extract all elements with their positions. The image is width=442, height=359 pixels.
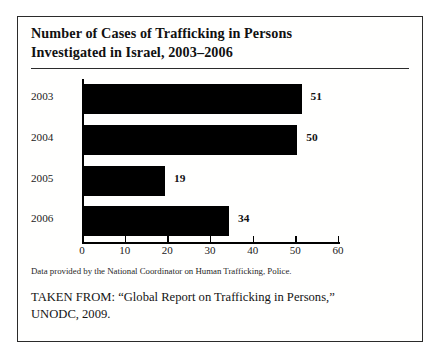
x-tick-label: 20 <box>162 244 173 256</box>
chart-title-line-1: Number of Cases of Trafficking in Person… <box>31 24 391 43</box>
x-tick-label: 60 <box>333 244 344 256</box>
bar-category-label: 2005 <box>31 172 77 184</box>
bar <box>84 125 297 155</box>
x-tick-label: 30 <box>205 244 216 256</box>
bar-row: 200450 <box>84 120 340 161</box>
x-tick-mark <box>295 236 296 243</box>
bar-category-label: 2004 <box>31 131 77 143</box>
x-tick-mark <box>253 236 254 243</box>
bar-category-label: 2003 <box>31 90 77 102</box>
bar <box>84 84 302 114</box>
bar-value-label: 50 <box>306 131 317 143</box>
taken-from-line-1: TAKEN FROM: “Global Report on Traffickin… <box>31 289 409 306</box>
x-tick-mark <box>167 236 168 243</box>
taken-from-citation: TAKEN FROM: “Global Report on Traffickin… <box>31 289 409 322</box>
taken-from-line-2: UNODC, 2009. <box>31 306 409 323</box>
x-tick-mark <box>210 236 211 243</box>
x-tick-label: 0 <box>79 244 85 256</box>
title-divider <box>31 68 409 69</box>
bar-category-label: 2006 <box>31 212 77 224</box>
x-tick-label: 40 <box>247 244 258 256</box>
bar-value-label: 19 <box>174 172 185 184</box>
chart-title: Number of Cases of Trafficking in Person… <box>31 24 391 61</box>
source-note: Data provided by the National Coordinato… <box>31 265 409 277</box>
bar-value-label: 34 <box>238 212 249 224</box>
plot-area: 200351200450200519200634 0102030405060 <box>31 77 409 252</box>
bar-row: 200519 <box>84 161 340 202</box>
x-tick-label: 50 <box>290 244 301 256</box>
x-axis-ticks: 0102030405060 <box>82 236 340 260</box>
x-tick-label: 10 <box>119 244 130 256</box>
bar-value-label: 51 <box>311 90 322 102</box>
chart-title-line-2: Investigated in Israel, 2003–2006 <box>31 43 391 62</box>
figure-frame: Number of Cases of Trafficking in Person… <box>17 16 423 342</box>
x-tick-mark <box>125 236 126 243</box>
bar <box>84 166 165 196</box>
bar-row: 200351 <box>84 79 340 120</box>
bars-container: 200351200450200519200634 <box>84 79 340 242</box>
x-tick-mark <box>338 236 339 243</box>
x-tick-mark <box>82 236 83 243</box>
bar <box>84 206 229 236</box>
